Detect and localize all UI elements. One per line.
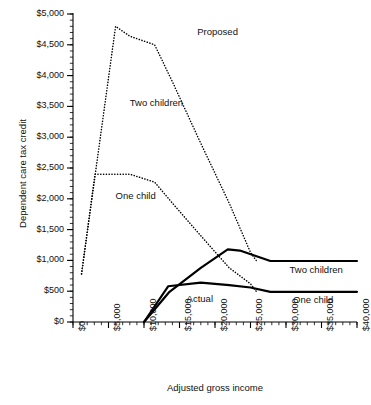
y-tick-label: $3,000 — [0, 131, 64, 141]
x-tick-label: $10,000 — [148, 298, 158, 331]
series-line-proposed-one-child — [82, 174, 257, 291]
annotation-proposed-one-child: One child — [116, 190, 156, 201]
x-axis-title: Adjusted gross income — [73, 382, 357, 393]
x-tick-label: $20,000 — [219, 298, 229, 331]
x-tick-label: $5,000 — [112, 303, 122, 331]
y-tick-label: $500 — [0, 285, 64, 295]
chart-figure: $0$500$1,000$1,500$2,000$2,500$3,000$3,5… — [0, 0, 371, 405]
x-tick-label: $40,000 — [361, 298, 371, 331]
y-axis-title: Dependent care tax credit — [17, 104, 28, 244]
annotation-actual-one-child: One child — [293, 294, 333, 305]
y-tick-label: $4,000 — [0, 70, 64, 80]
y-tick-label: $2,000 — [0, 193, 64, 203]
annotation-actual-two-children: Two children — [290, 264, 343, 275]
x-tick-label: $0 — [77, 321, 87, 331]
y-tick-label: $0 — [0, 316, 64, 326]
y-tick-label: $1,000 — [0, 254, 64, 264]
y-tick-label: $2,500 — [0, 162, 64, 172]
annotation-actual: Actual — [187, 293, 213, 304]
x-tick-label: $25,000 — [254, 298, 264, 331]
y-tick-label: $3,500 — [0, 100, 64, 110]
y-tick-label: $4,500 — [0, 39, 64, 49]
y-tick-label: $1,500 — [0, 224, 64, 234]
series-line-proposed-two-children — [82, 26, 257, 274]
series-group — [82, 26, 357, 322]
annotation-proposed: Proposed — [197, 26, 238, 37]
y-tick-label: $5,000 — [0, 8, 64, 18]
annotation-proposed-two-children: Two children — [130, 97, 183, 108]
